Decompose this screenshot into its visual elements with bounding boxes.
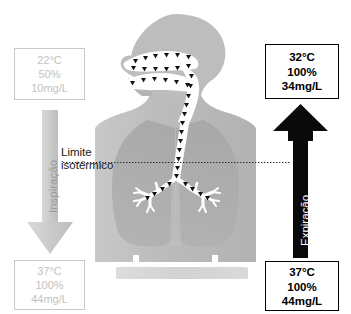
inlet-relative-humidity: 50% [15, 67, 84, 81]
alveolar-expired-absolute-humidity: 44mg/L [266, 294, 338, 309]
alveolar-inspired-relative-humidity: 100% [15, 278, 84, 292]
isothermic-boundary-label: Limite isotérmico [61, 146, 113, 172]
alveolar-inspired-temperature: 37°C [15, 264, 84, 278]
alveolar-inspired-absolute-humidity: 44mg/L [15, 292, 84, 306]
inspired-air-inlet-values: 22°C 50% 10mg/L [14, 48, 85, 100]
alveolar-expired-temperature: 37°C [266, 265, 338, 280]
outlet-temperature: 32°C [266, 50, 338, 65]
expired-air-outlet-values: 32°C 100% 34mg/L [265, 44, 339, 99]
outlet-relative-humidity: 100% [266, 65, 338, 80]
isothermic-label-line-2: isotérmico [61, 159, 113, 172]
inspired-air-alveolar-values: 37°C 100% 44mg/L [14, 260, 85, 310]
respiratory-isothermic-diagram: 22°C 50% 10mg/L 32°C 100% 34mg/L 37°C 10… [0, 0, 351, 314]
base-bar [116, 267, 248, 279]
inlet-temperature: 22°C [15, 53, 84, 67]
inspiration-label: Inspiração [47, 160, 59, 213]
expiration-label: Expiração [299, 195, 311, 246]
inlet-absolute-humidity: 10mg/L [15, 81, 84, 95]
expired-air-alveolar-values: 37°C 100% 44mg/L [265, 261, 339, 311]
isothermic-label-line-1: Limite [61, 146, 92, 158]
outlet-absolute-humidity: 34mg/L [266, 79, 338, 94]
alveolar-expired-relative-humidity: 100% [266, 280, 338, 295]
